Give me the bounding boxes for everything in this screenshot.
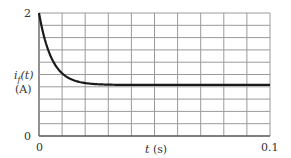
plot-area (0, 0, 291, 158)
grid-lines (39, 13, 270, 136)
y-axis-unit: (A) (15, 84, 32, 95)
x-tick-min: 0 (36, 142, 43, 153)
y-tick-max: 2 (24, 8, 31, 19)
x-axis-label: t (s) (145, 144, 167, 155)
y-tick-min: 0 (24, 131, 31, 142)
x-axis-var: t (145, 143, 149, 156)
x-tick-max: 0.1 (261, 142, 279, 153)
x-axis-unit: (s) (153, 143, 167, 156)
y-axis-arg: (t) (21, 69, 34, 82)
